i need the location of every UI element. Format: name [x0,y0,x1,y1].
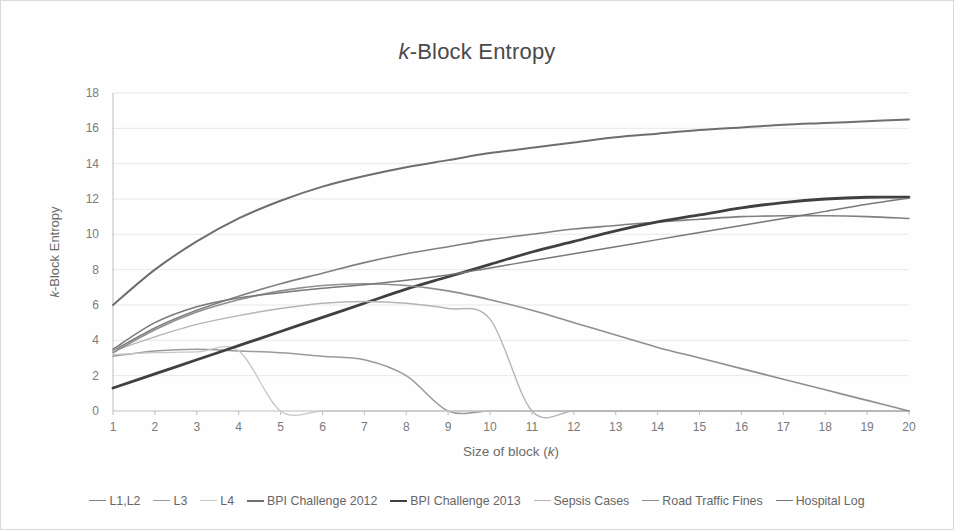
x-tick-label: 3 [193,420,200,434]
legend-label: L4 [220,495,234,507]
x-tick-label: 20 [902,420,916,434]
y-axis-title: k-Block Entropy [47,206,62,298]
legend-swatch-icon [89,500,106,501]
legend-label: BPI Challenge 2012 [267,495,377,507]
x-axis-title-k: k [548,444,556,459]
x-tick-label: 6 [319,420,326,434]
legend-item[interactable]: L3 [153,495,187,507]
legend-swatch-icon [390,500,407,502]
y-tick-label: 12 [86,192,100,206]
x-tick-label: 16 [735,420,749,434]
series-line-l1-l2 [113,216,909,351]
legend-label: L3 [173,495,187,507]
legend-item[interactable]: Road Traffic Fines [642,495,762,507]
x-tick-label: 15 [693,420,707,434]
legend-item[interactable]: Hospital Log [776,495,865,507]
legend-item[interactable]: Sepsis Cases [534,495,630,507]
y-tick-label: 18 [86,86,100,100]
y-tick-label: 6 [92,298,99,312]
legend-item[interactable]: BPI Challenge 2012 [247,495,377,507]
y-tick-label: 2 [92,369,99,383]
y-axis-title-k: k [47,290,62,298]
legend-item[interactable]: L1,L2 [89,495,140,507]
x-tick-label: 10 [483,420,497,434]
x-axis-title: Size of block (k) [463,444,559,459]
x-tick-label: 4 [235,420,242,434]
series-line-sepsis-cases [113,301,909,417]
legend-swatch-icon [247,500,264,502]
y-tick-label: 10 [86,227,100,241]
legend-label: Hospital Log [796,495,865,507]
x-tick-label: 12 [567,420,581,434]
x-tick-label: 11 [526,420,539,434]
x-tick-label: 13 [609,420,623,434]
y-tick-label: 4 [92,333,99,347]
x-tick-label: 17 [777,420,791,434]
y-tick-label: 0 [92,404,99,418]
chart-figure: k-Block Entropy 024681012141618123456789… [0,0,954,530]
legend-label: BPI Challenge 2013 [410,495,520,507]
series-line-bpi-challenge-2013 [113,197,909,388]
x-tick-label: 1 [110,420,117,434]
y-tick-label: 14 [86,157,100,171]
legend-label: L1,L2 [109,495,140,507]
x-tick-label: 8 [403,420,410,434]
chart-legend: L1,L2L3L4BPI Challenge 2012BPI Challenge… [1,495,953,507]
x-tick-label: 14 [651,420,665,434]
legend-item[interactable]: BPI Challenge 2013 [390,495,520,507]
x-tick-label: 2 [152,420,159,434]
x-tick-label: 18 [819,420,833,434]
legend-swatch-icon [200,500,217,501]
x-tick-label: 5 [277,420,284,434]
legend-label: Road Traffic Fines [662,495,762,507]
series-line-bpi-challenge-2012 [113,120,909,306]
legend-label: Sepsis Cases [554,495,630,507]
plot-area: 0246810121416181234567891011121314151617… [1,1,954,530]
legend-swatch-icon [776,500,793,501]
y-tick-label: 8 [92,263,99,277]
legend-swatch-icon [153,500,170,501]
y-tick-label: 16 [86,121,100,135]
x-tick-label: 7 [361,420,368,434]
y-axis-title-group: k-Block Entropy [47,206,62,298]
x-tick-label: 19 [860,420,874,434]
x-tick-label: 9 [445,420,452,434]
legend-swatch-icon [642,500,659,501]
legend-swatch-icon [534,500,551,501]
legend-item[interactable]: L4 [200,495,234,507]
